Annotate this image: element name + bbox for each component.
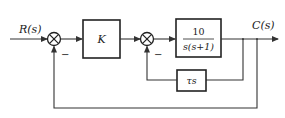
plant-numerator: 10 [192,26,204,37]
minus-sign-1: − [61,49,69,60]
output-label: C(s) [252,19,275,32]
minus-sign-2: − [154,49,162,60]
block-diagram: R(s) − K − 10 s(s+1) C(s) τs [0,0,285,118]
branch-point-inner [242,38,244,40]
plant-denominator: s(s+1) [183,41,214,52]
gain-label: K [96,33,106,46]
summing-junction-2 [141,33,154,46]
branch-point-outer [256,38,258,40]
input-label: R(s) [18,23,42,36]
summing-junction-1 [48,33,61,46]
rate-feedback-label: τs [186,75,196,86]
